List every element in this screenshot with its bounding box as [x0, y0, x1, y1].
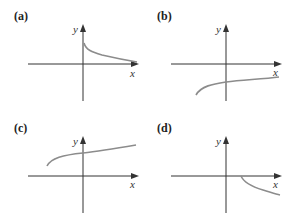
graph-b: y x	[143, 0, 293, 112]
y-arrow-icon	[223, 24, 229, 32]
panel-c: (c) y x	[0, 112, 146, 224]
y-arrow-icon	[80, 24, 86, 32]
x-axis-label: x	[272, 178, 278, 190]
y-axis-label: y	[72, 23, 78, 35]
panel-d: (d) y x	[143, 112, 289, 224]
curve-b	[196, 77, 279, 95]
y-axis-label: y	[215, 135, 221, 147]
y-axis-label: y	[72, 135, 78, 147]
curve-a	[84, 43, 137, 62]
x-axis-label: x	[129, 178, 135, 190]
x-axis-label: x	[272, 66, 278, 78]
panel-b: (b) y x	[143, 0, 289, 112]
x-axis-label: x	[129, 67, 135, 79]
y-axis-label: y	[215, 23, 221, 35]
panel-a: (a) y x	[0, 0, 146, 112]
y-arrow-icon	[80, 136, 86, 144]
curve-c	[47, 145, 136, 166]
graph-d: y x	[143, 112, 293, 224]
y-arrow-icon	[223, 136, 229, 144]
graph-a: y x	[0, 0, 146, 112]
graph-c: y x	[0, 112, 146, 224]
